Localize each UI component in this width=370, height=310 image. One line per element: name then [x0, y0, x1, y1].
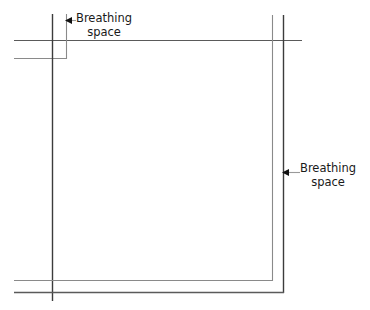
callout-top-left-line1: Breathing [76, 11, 132, 25]
breathing-space-line-art [0, 0, 370, 310]
callout-right-line1: Breathing [300, 161, 356, 175]
callout-right-line2: space [300, 175, 356, 189]
callout-right-pointer [282, 169, 300, 176]
diagram-canvas: Breathing space Breathing space [0, 0, 370, 310]
callout-label-top-left: Breathing space [76, 11, 132, 39]
callout-label-right: Breathing space [300, 161, 356, 189]
callout-top-left-line2: space [76, 25, 132, 39]
